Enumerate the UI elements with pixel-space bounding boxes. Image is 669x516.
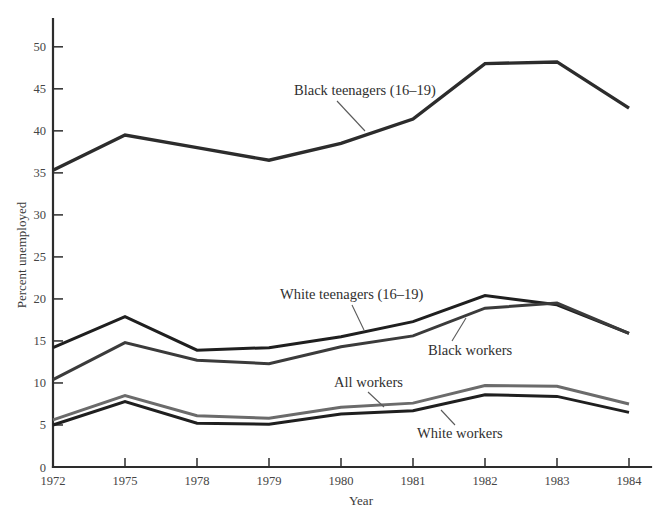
y-tick-label: 20 — [34, 292, 47, 306]
x-tick-label: 1981 — [401, 474, 426, 488]
x-tick-label: 1980 — [329, 474, 354, 488]
y-tick-label: 50 — [34, 40, 47, 54]
x-tick-label: 1975 — [113, 474, 138, 488]
annotation-label-black-workers: Black workers — [428, 342, 513, 358]
annotation-label-white-teenagers: White teenagers (16–19) — [280, 286, 424, 303]
y-tick-label: 35 — [34, 166, 47, 180]
y-axis-ticks: 05101520253035404550 — [34, 40, 64, 474]
y-tick-label: 30 — [34, 208, 47, 222]
x-axis-title: Year — [349, 493, 374, 508]
y-tick-label: 15 — [34, 334, 47, 348]
x-tick-label: 1984 — [617, 474, 643, 488]
y-tick-label: 0 — [40, 461, 46, 475]
x-tick-label: 1978 — [185, 474, 210, 488]
x-tick-label: 1983 — [545, 474, 570, 488]
y-tick-label: 10 — [34, 376, 47, 390]
chart-canvas: 05101520253035404550 1972197519781979198… — [0, 0, 669, 516]
series-lines — [53, 62, 629, 425]
y-tick-label: 45 — [34, 82, 47, 96]
annotation-leader-white-workers — [441, 410, 455, 425]
annotation-label-black-teenagers: Black teenagers (16–19) — [294, 82, 436, 99]
y-tick-label: 5 — [40, 418, 46, 432]
annotation-label-all-workers: All workers — [334, 374, 403, 390]
annotation-leader-white-teenagers — [352, 305, 364, 330]
y-axis-title: Percent unemployed — [14, 201, 29, 308]
annotation-label-white-workers: White workers — [417, 425, 503, 441]
y-tick-label: 25 — [34, 250, 47, 264]
unemployment-line-chart: 05101520253035404550 1972197519781979198… — [0, 0, 669, 516]
annotation-leader-black-teenagers — [337, 101, 365, 131]
x-tick-label: 1979 — [257, 474, 282, 488]
series-line-black-teenagers-16-19 — [53, 62, 629, 170]
x-tick-label: 1972 — [41, 474, 66, 488]
x-axis-ticks: 197219751978197919801981198219831984 — [41, 458, 643, 488]
series-line-black-workers — [53, 303, 629, 379]
y-tick-label: 40 — [34, 124, 47, 138]
x-tick-label: 1982 — [473, 474, 498, 488]
